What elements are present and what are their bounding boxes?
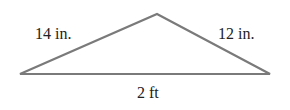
triangle-shape bbox=[20, 14, 270, 74]
base-label: 2 ft bbox=[137, 85, 159, 101]
left-side-label: 14 in. bbox=[35, 26, 71, 42]
right-side-label: 12 in. bbox=[218, 26, 254, 42]
